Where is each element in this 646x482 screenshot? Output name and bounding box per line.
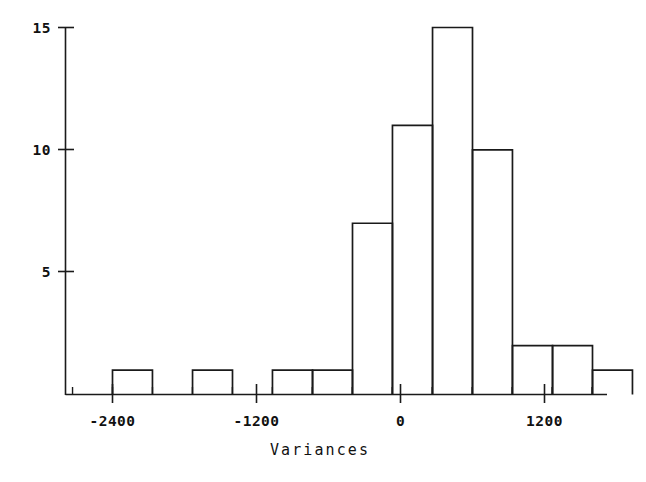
- y-tick-label-15: 15: [33, 20, 51, 36]
- histogram-bar: [473, 150, 513, 395]
- histogram-bar: [512, 346, 552, 395]
- histogram-bar: [113, 370, 153, 394]
- histogram-bar: [272, 370, 312, 394]
- histogram-bar: [353, 223, 393, 394]
- y-axis-tick-labels: 15 10 5: [33, 20, 51, 280]
- histogram-bar: [193, 370, 233, 394]
- histogram-bar: [593, 370, 633, 394]
- x-axis-ticks: [73, 384, 592, 403]
- y-tick-label-5: 5: [42, 264, 51, 280]
- histogram-bar: [433, 28, 473, 395]
- x-tick-label: 1200: [526, 413, 563, 429]
- histogram-chart: 15 10 5 -2400-120001200 Variances: [0, 0, 646, 482]
- histogram-bar: [392, 125, 432, 394]
- x-tick-label: -1200: [233, 413, 279, 429]
- histogram-bars: [113, 28, 633, 395]
- chart-canvas: 15 10 5 -2400-120001200 Variances: [0, 0, 646, 482]
- x-tick-label: -2400: [89, 413, 135, 429]
- x-tick-label: 0: [396, 413, 405, 429]
- x-axis-tick-labels: -2400-120001200: [89, 413, 563, 429]
- histogram-bar: [313, 370, 353, 394]
- y-tick-label-10: 10: [33, 142, 51, 158]
- histogram-bar: [553, 346, 593, 395]
- x-axis-title: Variances: [270, 441, 370, 459]
